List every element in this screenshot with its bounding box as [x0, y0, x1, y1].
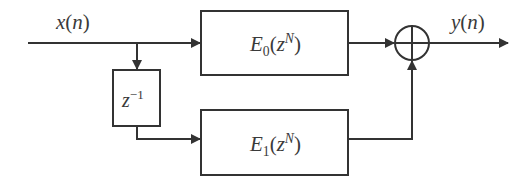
input-label: x(n)	[56, 12, 90, 33]
delay-label: z−1	[122, 88, 144, 110]
e1-label: E1(zN)	[250, 132, 301, 159]
e0-label: E0(zN)	[250, 32, 301, 59]
polyphase-block-diagram: x(n) y(n) E0(zN) E1(zN) z−1	[0, 0, 530, 184]
delay-to-e1-line	[137, 126, 200, 139]
e1-to-summer-line	[348, 61, 412, 139]
output-label: y(n)	[451, 12, 485, 33]
